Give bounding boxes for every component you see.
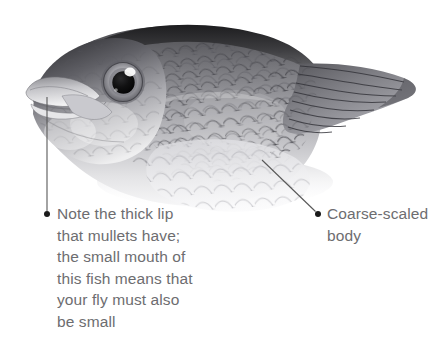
callout-lip: Note the thick lip that mullets have; th… bbox=[57, 203, 227, 332]
callout-lip-text: Note the thick lip that mullets have; th… bbox=[57, 203, 227, 332]
callout-body-text: Coarse-scaled body bbox=[327, 203, 444, 246]
callout-bullet-body bbox=[315, 211, 321, 217]
tail-fin bbox=[270, 50, 416, 160]
fish-eye bbox=[101, 60, 145, 104]
eye-highlight bbox=[124, 68, 135, 77]
eye-highlight-small bbox=[114, 88, 118, 92]
callout-bullet-lip bbox=[44, 211, 50, 217]
figure-page: Note the thick lip that mullets have; th… bbox=[0, 0, 444, 352]
callout-body: Coarse-scaled body bbox=[327, 203, 444, 246]
